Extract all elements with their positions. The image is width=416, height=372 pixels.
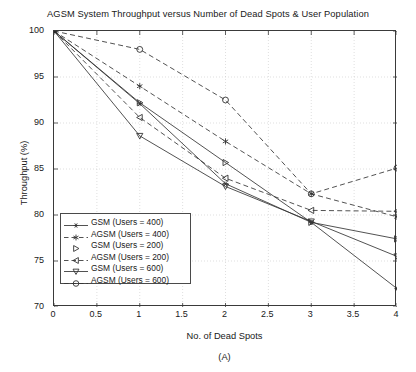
legend-marker-icon <box>61 240 91 251</box>
legend-item[interactable]: GSM (Users = 200) <box>61 240 190 251</box>
x-tick-0.5: 0.5 <box>90 309 103 319</box>
legend-marker-icon <box>61 217 91 228</box>
chart-legend: GSM (Users = 400)AGSM (Users = 400)GSM (… <box>60 213 191 284</box>
legend-marker-icon <box>61 229 91 240</box>
legend-item[interactable]: GSM (Users = 600) <box>61 263 190 274</box>
legend-label: AGSM (Users = 600) <box>91 275 169 286</box>
legend-marker-icon <box>61 263 91 274</box>
x-tick-1.5: 1.5 <box>175 309 188 319</box>
legend-item[interactable]: AGSM (Users = 200) <box>61 252 190 263</box>
legend-label: GSM (Users = 200) <box>91 240 163 251</box>
x-tick-0: 0 <box>50 309 55 319</box>
legend-label: GSM (Users = 600) <box>91 263 163 274</box>
x-tick-4: 4 <box>393 309 398 319</box>
legend-item[interactable]: AGSM (Users = 600) <box>61 275 190 286</box>
legend-item[interactable]: GSM (Users = 400) <box>61 217 190 228</box>
y-axis-label: Throughput (%) <box>19 103 29 243</box>
origin-marker <box>54 31 57 33</box>
legend-label: GSM (Users = 400) <box>91 217 163 228</box>
legend-marker-icon <box>61 275 91 286</box>
series-line <box>54 31 397 220</box>
x-tick-3.5: 3.5 <box>347 309 360 319</box>
x-tick-2.5: 2.5 <box>261 309 274 319</box>
sub-caption: (A) <box>53 352 396 362</box>
x-tick-3: 3 <box>308 309 313 319</box>
legend-label: AGSM (Users = 200) <box>91 252 169 263</box>
x-tick-2: 2 <box>222 309 227 319</box>
figure-container: AGSM System Throughput versus Number of … <box>0 0 416 372</box>
legend-label: AGSM (Users = 400) <box>91 229 169 240</box>
legend-item[interactable]: AGSM (Users = 400) <box>61 229 190 240</box>
x-axis-label: No. of Dead Spots <box>53 331 396 341</box>
x-tick-1: 1 <box>136 309 141 319</box>
legend-marker-icon <box>61 252 91 263</box>
